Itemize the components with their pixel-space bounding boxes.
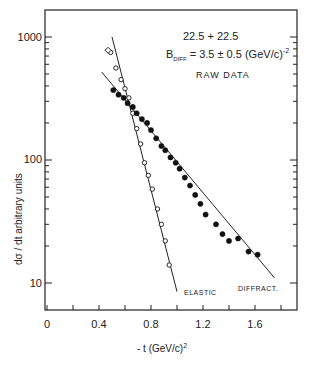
elastic-point xyxy=(114,66,118,70)
diffract-point xyxy=(187,183,192,188)
elastic-point xyxy=(155,207,159,211)
chart-canvas: 0 0.4 0.8 1.2 1.6 1000 100 10 - t (GeV/c… xyxy=(0,0,309,368)
x-axis-ticks xyxy=(47,305,281,310)
diffract-label: DIFFRACT. xyxy=(238,285,278,292)
elastic-point xyxy=(123,86,127,90)
y-tick-label: 1000 xyxy=(18,31,42,43)
diffract-point xyxy=(203,212,208,217)
elastic-point xyxy=(127,96,131,100)
diffract-point xyxy=(173,160,178,165)
elastic-point xyxy=(135,126,139,130)
diffract-point xyxy=(111,88,116,93)
elastic-point xyxy=(163,239,167,243)
elastic-point xyxy=(150,187,154,191)
diffract-point xyxy=(182,175,187,180)
x-tick-label: 1.6 xyxy=(247,318,262,330)
y-tick-label: 10 xyxy=(30,277,42,289)
diffract-point xyxy=(236,236,241,241)
diffract-point xyxy=(226,238,231,243)
diffract-point xyxy=(220,231,225,236)
y-tick-label: 100 xyxy=(24,153,42,165)
diffract-point xyxy=(125,101,130,106)
diffract-point xyxy=(213,222,218,227)
x-tick-label: 1.2 xyxy=(195,318,210,330)
diffract-point xyxy=(255,252,260,257)
x-tick-label: 0 xyxy=(44,318,50,330)
elastic-point xyxy=(146,173,150,177)
elastic-point xyxy=(167,263,171,267)
diffract-point xyxy=(130,104,135,109)
x-tick-label: 0.8 xyxy=(143,318,158,330)
diffract-point xyxy=(193,192,198,197)
diffract-point xyxy=(168,155,173,160)
raw-data-annotation: RAW DATA xyxy=(196,70,250,80)
y-axis-label: dσ / dt arbitrary units xyxy=(13,173,24,265)
diffract-point xyxy=(145,120,150,125)
diffract-point xyxy=(159,143,164,148)
x-axis-label: - t (GeV/c)2 xyxy=(137,342,187,354)
diffract-point xyxy=(134,111,139,116)
elastic-label: ELASTIC xyxy=(184,289,217,296)
diffract-point xyxy=(116,92,121,97)
x-tick-label: 0.4 xyxy=(91,318,106,330)
elastic-point xyxy=(159,222,163,226)
elastic-point xyxy=(138,142,142,146)
diffract-point xyxy=(198,201,203,206)
diffract-point xyxy=(148,128,153,133)
diffract-point xyxy=(154,136,159,141)
energy-annotation: 22.5 + 22.5 xyxy=(183,30,238,42)
diffract-point xyxy=(121,95,126,100)
diffract-point xyxy=(246,249,251,254)
diffract-point xyxy=(139,117,144,122)
elastic-point xyxy=(142,161,146,165)
data-points xyxy=(105,47,260,267)
diffract-point xyxy=(177,166,182,171)
slope-annotation: BDIFF= 3.5 ± 0.5 (GeV/c)-2 xyxy=(166,47,289,62)
diffract-point xyxy=(163,148,168,153)
elastic-point xyxy=(119,77,123,81)
